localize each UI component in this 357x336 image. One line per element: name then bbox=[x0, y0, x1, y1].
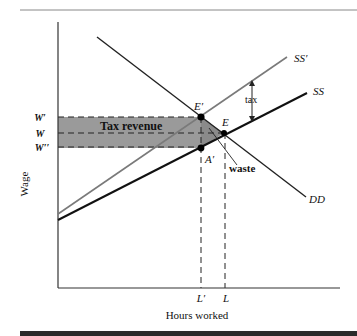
x-axis-label: Hours worked bbox=[166, 309, 229, 321]
supply-curve bbox=[58, 93, 307, 220]
point-e bbox=[221, 130, 227, 136]
point-e-prime bbox=[197, 113, 204, 120]
hours-tick: L bbox=[222, 292, 229, 304]
e-prime-label: E′ bbox=[193, 100, 204, 112]
taxed-supply-label: SS′ bbox=[294, 52, 308, 64]
e-label: E bbox=[221, 116, 229, 128]
tax-revenue-label: Tax revenue bbox=[100, 119, 163, 133]
net-wage-tick: W′′ bbox=[35, 142, 50, 153]
gross-wage-tick: W′ bbox=[34, 112, 46, 123]
supply-label: SS bbox=[313, 85, 325, 97]
a-prime-label: A′ bbox=[204, 153, 215, 165]
wage-tick: W bbox=[36, 128, 46, 139]
y-axis-label: Wage bbox=[18, 172, 30, 197]
waste-label: waste bbox=[229, 162, 255, 174]
tax-label: tax bbox=[245, 94, 257, 105]
bottom-bar bbox=[20, 331, 357, 336]
point-a-prime bbox=[198, 145, 205, 152]
demand-label: DD bbox=[308, 193, 325, 205]
new-hours-tick: L′ bbox=[196, 292, 206, 304]
tax-incidence-diagram: Tax revenue tax waste SS′ SS DD E′ E A′ … bbox=[0, 0, 357, 336]
